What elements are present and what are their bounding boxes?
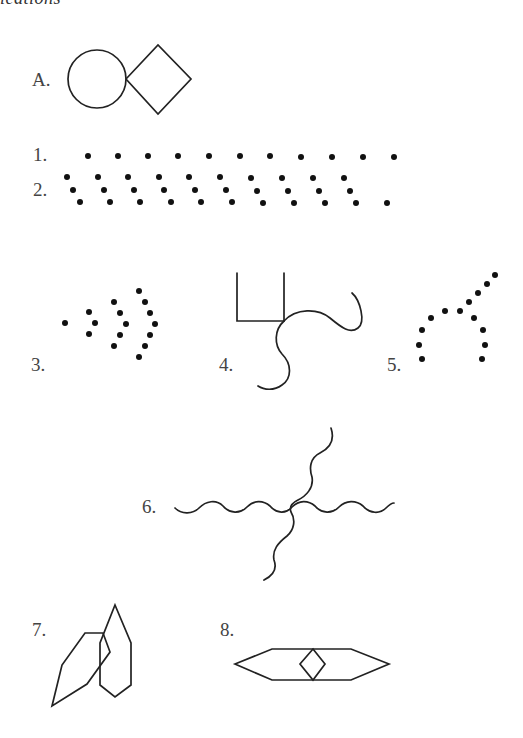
figures-canvas: [0, 0, 523, 738]
circle-shape: [68, 50, 126, 108]
figure-5-dot-branch: [416, 272, 498, 362]
figure-page: ications A. 1. 2. 3. 4. 5. 6. 7. 8.: [0, 0, 523, 738]
figure-3-dot-chevrons: [62, 288, 158, 360]
figure-6-wavy-cross: [175, 428, 394, 580]
diamond-shape: [126, 45, 191, 114]
figure-7-overlapping-polygons: [52, 605, 131, 706]
figure-8-hexagon-diamond: [235, 649, 389, 680]
figure-a: [68, 45, 191, 114]
figure-4-bracket-waves: [237, 273, 362, 389]
figure-1-dot-row: [85, 153, 397, 160]
figure-2-dot-groups: [64, 174, 390, 206]
